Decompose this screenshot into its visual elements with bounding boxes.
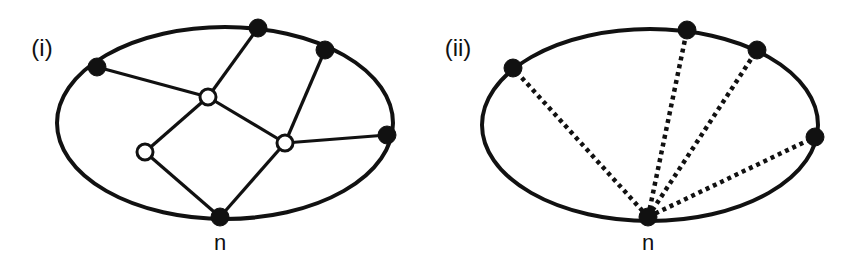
open-node: [137, 144, 153, 160]
solid-edge: [285, 50, 325, 143]
panel-label: (i): [31, 34, 52, 61]
filled-node: [378, 126, 396, 144]
solid-edge: [285, 135, 387, 143]
solid-edge: [145, 152, 220, 217]
panel-label: (ii): [445, 34, 472, 61]
node-n-label: n: [214, 230, 226, 255]
boundary-ellipse: [57, 27, 393, 219]
filled-node: [806, 128, 824, 146]
solid-edge: [208, 97, 285, 143]
panel-ii: (ii)n: [445, 21, 824, 255]
filled-node: [249, 19, 267, 37]
filled-node: [748, 41, 766, 59]
filled-node: [504, 59, 522, 77]
solid-edge: [145, 97, 208, 152]
filled-node: [639, 208, 657, 226]
boundary-ellipse: [482, 29, 818, 221]
filled-node: [316, 41, 334, 59]
solid-edge: [208, 28, 258, 97]
open-node: [200, 89, 216, 105]
filled-node: [88, 58, 106, 76]
open-node: [277, 135, 293, 151]
node-n-label: n: [642, 230, 654, 255]
solid-edge: [97, 67, 208, 97]
panel-i: (i)n: [31, 19, 396, 255]
filled-node: [678, 21, 696, 39]
solid-edge: [220, 143, 285, 217]
graph-diagram: (i)n (ii)n: [0, 0, 860, 262]
filled-node: [211, 208, 229, 226]
